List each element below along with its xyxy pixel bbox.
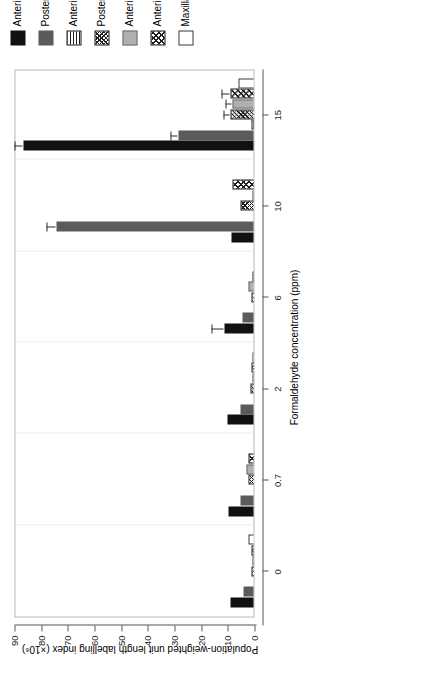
y-tick-mark bbox=[254, 625, 255, 631]
plot-area bbox=[14, 69, 254, 617]
y-tick-label: 30 bbox=[169, 635, 180, 646]
y-tick-label: 40 bbox=[142, 635, 153, 646]
y-tick-label: 80 bbox=[35, 635, 46, 646]
error-bar-cap bbox=[46, 222, 47, 231]
y-tick-mark bbox=[67, 625, 68, 631]
bar bbox=[246, 464, 253, 474]
x-tick-mark bbox=[262, 205, 268, 206]
legend-swatch bbox=[38, 30, 53, 45]
y-tick-label: 60 bbox=[89, 635, 100, 646]
bar bbox=[238, 78, 253, 88]
chart-legend: Anterior lateral meatusPosterior lateral… bbox=[10, 5, 430, 45]
bar bbox=[252, 190, 253, 200]
plot-inner bbox=[15, 70, 253, 616]
bar bbox=[240, 404, 253, 414]
bar bbox=[224, 323, 253, 333]
x-tick-label: 0.7 bbox=[271, 473, 282, 486]
legend-label: Anterior medial maxilloturbinate bbox=[152, 0, 163, 26]
y-tick-mark bbox=[227, 625, 228, 631]
legend-swatch bbox=[122, 30, 137, 45]
legend-swatch bbox=[150, 30, 165, 45]
gridline bbox=[15, 341, 253, 342]
y-axis-line bbox=[14, 624, 256, 625]
y-tick-mark bbox=[174, 625, 175, 631]
bar bbox=[251, 292, 253, 302]
legend-label: Posterior mid-septum bbox=[96, 0, 107, 26]
bar bbox=[227, 414, 253, 424]
y-tick-label: 20 bbox=[195, 635, 206, 646]
legend-swatch bbox=[94, 30, 109, 45]
y-tick-label: 10 bbox=[222, 635, 233, 646]
bar bbox=[230, 88, 253, 98]
x-axis-line bbox=[262, 69, 263, 625]
bar bbox=[232, 99, 253, 109]
bar bbox=[242, 313, 253, 323]
error-bar-cap bbox=[14, 141, 15, 150]
bar bbox=[248, 534, 253, 544]
bar bbox=[250, 383, 253, 393]
bar bbox=[251, 566, 253, 576]
bar bbox=[230, 597, 253, 607]
error-bar-cap bbox=[211, 324, 212, 333]
legend-swatch bbox=[10, 30, 25, 45]
bar bbox=[252, 271, 253, 281]
x-tick-label: 10 bbox=[271, 201, 282, 212]
y-tick-mark bbox=[41, 625, 42, 631]
x-axis-title: Formaldehyde concentration (ppm) bbox=[288, 69, 299, 625]
bar bbox=[240, 495, 253, 505]
bar bbox=[243, 587, 253, 597]
legend-swatch bbox=[178, 30, 193, 45]
x-tick-label: 15 bbox=[271, 109, 282, 120]
x-tick-mark bbox=[262, 114, 268, 115]
y-tick-label: 0 bbox=[249, 635, 260, 640]
x-tick-mark bbox=[262, 479, 268, 480]
y-tick-mark bbox=[147, 625, 148, 631]
gridline bbox=[15, 250, 253, 251]
legend-swatch bbox=[66, 30, 81, 45]
legend-label: Posterior lateral meatus bbox=[40, 0, 51, 26]
x-tick-mark bbox=[262, 296, 268, 297]
bar bbox=[232, 179, 253, 189]
bar bbox=[248, 281, 253, 291]
bar bbox=[251, 119, 253, 129]
legend-label: Anterior mid-spetum bbox=[68, 0, 79, 26]
bar bbox=[252, 555, 253, 565]
bar bbox=[228, 506, 253, 516]
x-tick-label: 2 bbox=[271, 386, 282, 391]
x-tick-mark bbox=[262, 388, 268, 389]
legend-label: Anterior lateral meatus bbox=[12, 0, 23, 26]
bar bbox=[178, 130, 253, 140]
error-bar-cap bbox=[170, 131, 171, 140]
bar bbox=[248, 453, 253, 463]
y-tick-label: 70 bbox=[62, 635, 73, 646]
legend-label: Anterior dorsal septum bbox=[124, 0, 135, 26]
y-axis-tick-labels: 0102030405060708090 bbox=[0, 635, 437, 685]
bar bbox=[252, 373, 253, 383]
y-tick-mark bbox=[121, 625, 122, 631]
bar bbox=[56, 221, 253, 231]
y-tick-mark bbox=[14, 625, 15, 631]
legend-label: Maxillary sinus bbox=[180, 0, 191, 26]
gridline bbox=[15, 432, 253, 433]
gridline bbox=[15, 158, 253, 159]
x-tick-label: 0 bbox=[271, 569, 282, 574]
bar bbox=[23, 140, 253, 150]
x-tick-mark bbox=[262, 570, 268, 571]
error-bar-cap bbox=[225, 99, 226, 108]
error-bar-line bbox=[211, 328, 223, 329]
y-tick-label: 50 bbox=[115, 635, 126, 646]
bar bbox=[230, 109, 253, 119]
y-tick-mark bbox=[201, 625, 202, 631]
bar bbox=[240, 200, 253, 210]
bar bbox=[248, 474, 253, 484]
y-tick-mark bbox=[94, 625, 95, 631]
error-bar-cap bbox=[221, 89, 222, 98]
bar bbox=[251, 362, 253, 372]
x-tick-label: 6 bbox=[271, 295, 282, 300]
y-tick-label: 90 bbox=[9, 635, 20, 646]
bar bbox=[252, 352, 253, 362]
bar bbox=[231, 232, 253, 242]
gridline bbox=[15, 524, 253, 525]
bar bbox=[251, 545, 253, 555]
figure-canvas: Population-weighted unit length labellin… bbox=[0, 0, 437, 685]
